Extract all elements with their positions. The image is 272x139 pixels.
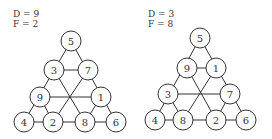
left-node-bottom-4: 6	[106, 112, 126, 132]
right-node-row2-right: 1	[206, 58, 226, 78]
svg-text:5: 5	[68, 36, 74, 47]
right-node-bottom-3: 2	[206, 110, 226, 130]
left-node-row2-right: 7	[78, 60, 98, 80]
left-node-top: 5	[61, 31, 81, 51]
svg-text:4: 4	[21, 117, 27, 128]
svg-text:1: 1	[98, 92, 104, 103]
left-node-row3-right: 1	[91, 87, 111, 107]
right-node-bottom-4: 6	[236, 110, 256, 130]
svg-text:7: 7	[85, 65, 91, 76]
right-node-row3-left: 3	[158, 84, 178, 104]
left-node-row2-left: 3	[44, 60, 64, 80]
svg-text:8: 8	[180, 115, 186, 126]
right-node-row3-right: 7	[220, 84, 240, 104]
left-node-bottom-3: 8	[75, 112, 95, 132]
svg-text:7: 7	[227, 89, 233, 100]
right-node-bottom-1: 4	[145, 110, 165, 130]
right-node-row2-left: 9	[177, 58, 197, 78]
left-node-bottom-2: 2	[43, 112, 63, 132]
left-triangle: 5 3 7 9 1 4 2 8 6	[14, 31, 126, 132]
left-node-row3-left: 9	[30, 87, 50, 107]
svg-text:9: 9	[184, 63, 190, 74]
right-node-bottom-2: 8	[173, 110, 193, 130]
svg-text:1: 1	[213, 63, 219, 74]
svg-text:9: 9	[37, 92, 43, 103]
svg-text:8: 8	[82, 117, 88, 128]
right-node-top: 5	[190, 28, 210, 48]
svg-text:6: 6	[243, 115, 249, 126]
svg-text:2: 2	[50, 117, 56, 128]
svg-text:4: 4	[152, 115, 158, 126]
left-node-bottom-1: 4	[14, 112, 34, 132]
right-triangle: 5 9 1 3 7 4 8 2 6	[145, 28, 256, 130]
svg-text:6: 6	[113, 117, 119, 128]
triangle-puzzle-diagram: 5 3 7 9 1 4 2 8 6 5 9 1 3 7 4 8 2 6	[0, 0, 272, 139]
svg-text:2: 2	[213, 115, 219, 126]
svg-text:3: 3	[165, 89, 171, 100]
svg-text:5: 5	[197, 33, 203, 44]
svg-text:3: 3	[51, 65, 57, 76]
